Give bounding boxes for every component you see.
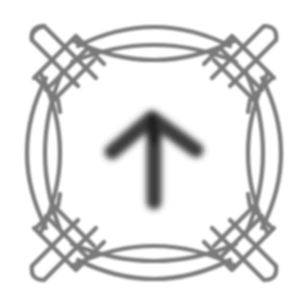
icon-canvas (0, 0, 308, 306)
arrow-up-icon (112, 118, 196, 202)
knot-frame-icon (0, 0, 308, 306)
